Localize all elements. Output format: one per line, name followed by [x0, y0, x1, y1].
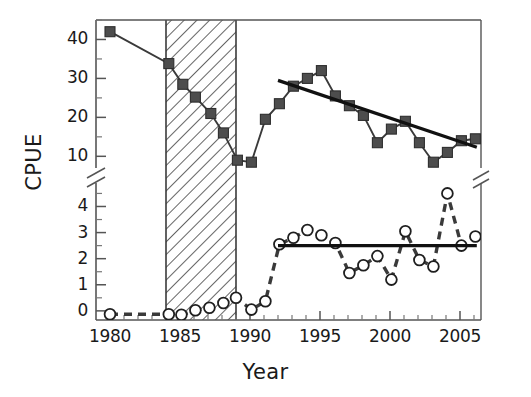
data-point-circle — [190, 305, 201, 316]
data-point-square — [105, 27, 115, 37]
x-tick-label: 1990 — [220, 326, 280, 346]
data-point-circle — [231, 292, 242, 303]
data-point-square — [442, 147, 452, 157]
y-tick-label: 3 — [42, 222, 88, 242]
data-point-circle — [218, 298, 229, 309]
data-point-square — [178, 79, 188, 89]
data-point-square — [470, 134, 480, 144]
data-point-square — [414, 138, 424, 148]
y-tick-label: 40 — [42, 28, 88, 48]
data-point-circle — [470, 231, 481, 242]
y-axis-title: CPUE — [22, 107, 46, 217]
data-point-circle — [344, 268, 355, 279]
y-tick-label: 20 — [42, 106, 88, 126]
data-point-square — [190, 92, 200, 102]
x-tick-label: 2005 — [430, 326, 490, 346]
data-point-circle — [386, 274, 397, 285]
data-point-square — [302, 73, 312, 83]
data-point-circle — [372, 251, 383, 262]
data-point-square — [246, 157, 256, 167]
data-point-circle — [204, 302, 215, 313]
data-point-circle — [316, 230, 327, 241]
data-point-circle — [288, 232, 299, 243]
x-tick-label: 1995 — [290, 326, 350, 346]
plot-background — [96, 20, 481, 320]
data-point-circle — [428, 261, 439, 272]
data-point-square — [206, 109, 216, 119]
y-tick-label: 30 — [42, 67, 88, 87]
x-axis-title: Year — [0, 360, 531, 384]
y-tick-label: 2 — [42, 248, 88, 268]
y-tick-label: 1 — [42, 274, 88, 294]
y-tick-label: 10 — [42, 145, 88, 165]
data-point-circle — [163, 309, 174, 320]
data-point-circle — [358, 260, 369, 271]
data-point-square — [372, 138, 382, 148]
data-point-circle — [105, 309, 116, 320]
y-tick-label: 4 — [42, 195, 88, 215]
data-point-square — [386, 124, 396, 134]
data-point-circle — [400, 226, 411, 237]
hatched-period-band — [166, 20, 236, 320]
x-tick-label: 1985 — [150, 326, 210, 346]
chart-figure: 1020304001234 198019851990199520002005 C… — [0, 0, 531, 397]
data-point-circle — [302, 225, 313, 236]
data-point-square — [316, 66, 326, 76]
data-point-circle — [246, 304, 257, 315]
data-point-square — [232, 155, 242, 165]
data-point-square — [428, 157, 438, 167]
data-point-square — [260, 114, 270, 124]
x-tick-label: 2000 — [360, 326, 420, 346]
data-point-circle — [176, 309, 187, 320]
data-point-circle — [442, 188, 453, 199]
data-point-square — [218, 128, 228, 138]
data-point-circle — [414, 255, 425, 266]
data-point-square — [274, 99, 284, 109]
x-tick-label: 1980 — [80, 326, 140, 346]
y-tick-label: 0 — [42, 300, 88, 320]
data-point-square — [164, 59, 174, 69]
data-point-circle — [260, 296, 271, 307]
